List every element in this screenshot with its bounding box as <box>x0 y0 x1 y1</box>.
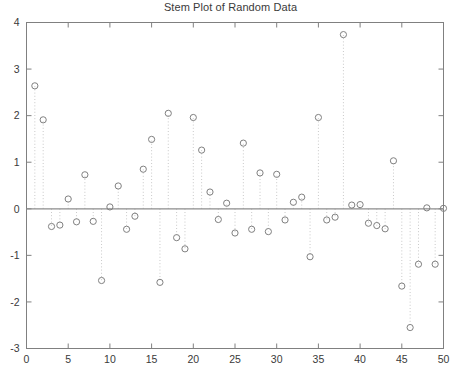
data-point <box>365 220 371 226</box>
data-point <box>357 201 363 207</box>
x-tick-label: 35 <box>313 353 325 365</box>
y-tick-label: 0 <box>14 203 20 215</box>
data-point <box>132 213 138 219</box>
data-point <box>190 114 196 120</box>
x-tick-label: 15 <box>146 353 158 365</box>
x-tick-label: 20 <box>187 353 199 365</box>
y-tick-label: -2 <box>10 296 19 308</box>
x-tick-label: 25 <box>229 353 241 365</box>
data-point <box>140 166 146 172</box>
y-tick-label: 1 <box>14 156 20 168</box>
stem-plot-figure: Stem Plot of Random Data 051015202530354… <box>0 0 461 389</box>
y-tick-label: -3 <box>10 342 19 354</box>
y-tick-label: 4 <box>14 16 20 28</box>
plot-canvas: 05101520253035404550-3-2-101234 <box>0 0 461 389</box>
y-tick-label: 3 <box>14 63 20 75</box>
data-markers <box>32 32 447 331</box>
data-point <box>123 226 129 232</box>
x-tick-label: 50 <box>438 353 450 365</box>
data-point <box>215 216 221 222</box>
data-point <box>199 147 205 153</box>
y-tick-label: -1 <box>10 249 19 261</box>
plot-frame <box>27 23 444 349</box>
data-point <box>249 226 255 232</box>
data-point <box>48 223 54 229</box>
stem-lines <box>35 35 444 328</box>
y-tick-label: 2 <box>14 109 20 121</box>
x-tick-label: 40 <box>354 353 366 365</box>
x-tick-label: 10 <box>104 353 116 365</box>
data-point <box>207 189 213 195</box>
data-point <box>232 230 238 236</box>
data-point <box>332 214 338 220</box>
x-tick-label: 0 <box>24 353 30 365</box>
x-tick-label: 30 <box>271 353 283 365</box>
x-tick-label: 45 <box>396 353 408 365</box>
data-point <box>115 183 121 189</box>
x-tick-label: 5 <box>65 353 71 365</box>
data-point <box>182 246 188 252</box>
